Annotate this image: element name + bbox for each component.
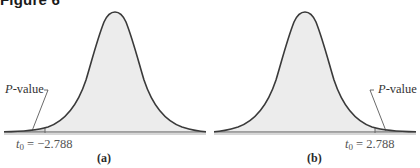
pvalue-label-a-italic: P <box>5 82 13 96</box>
pvalue-label-b-text: -value <box>386 82 417 96</box>
test-stat-label-a: t0 = −2.788 <box>16 137 72 152</box>
test-stat-equals-b: = <box>353 137 366 151</box>
panel-label-a: (a) <box>97 151 111 166</box>
pvalue-label-a: P-value <box>5 82 44 97</box>
test-stat-label-b: t0 = 2.788 <box>345 137 394 152</box>
test-stat-equals-a: = <box>24 137 37 151</box>
pvalue-label-b-italic: P <box>378 82 386 96</box>
pvalue-label-b: P-value <box>378 82 417 97</box>
pvalue-label-a-text: -value <box>13 82 44 96</box>
curve-area-a <box>4 12 206 132</box>
test-stat-value-b: 2.788 <box>366 137 394 151</box>
test-stat-value-a: −2.788 <box>37 137 72 151</box>
curve-area-b <box>214 12 416 132</box>
panel-label-b: (b) <box>307 151 322 166</box>
